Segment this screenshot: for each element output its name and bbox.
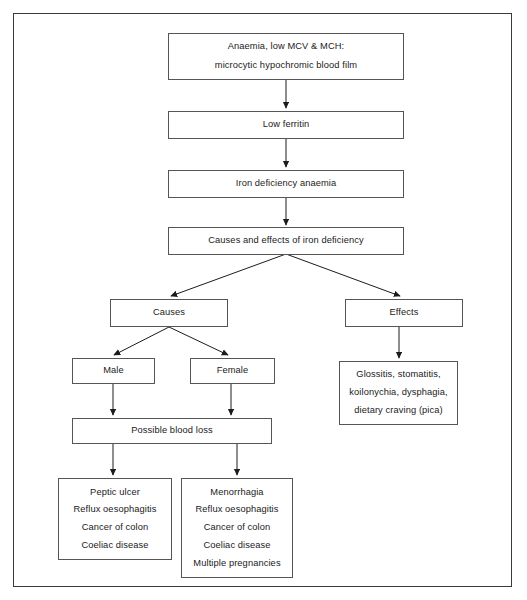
node-effects-label: Effects: [386, 308, 423, 318]
node-female-causes[interactable]: Menorrhagia Reflux oesophagitis Cancer o…: [181, 478, 293, 578]
node-effects-detail-line-3: dietary craving (pica): [350, 406, 447, 416]
node-iron-deficiency-anaemia-label: Iron deficiency anaemia: [232, 179, 341, 189]
node-causes-and-effects-label: Causes and effects of iron deficiency: [204, 236, 367, 246]
node-male-causes[interactable]: Peptic ulcer Reflux oesophagitis Cancer …: [58, 478, 172, 560]
node-causes[interactable]: Causes: [110, 299, 228, 327]
node-female-causes-line-2: Reflux oesophagitis: [191, 505, 282, 515]
node-effects-detail-line-2: koilonychia, dysphagia,: [345, 388, 451, 398]
node-anaemia[interactable]: Anaemia, low MCV & MCH: microcytic hypoc…: [168, 33, 404, 80]
node-female-causes-line-4: Coeliac disease: [199, 541, 274, 551]
node-male-causes-line-1: Peptic ulcer: [86, 488, 144, 498]
node-iron-deficiency-anaemia[interactable]: Iron deficiency anaemia: [168, 170, 404, 198]
node-effects[interactable]: Effects: [345, 299, 463, 327]
node-possible-blood-loss[interactable]: Possible blood loss: [72, 418, 272, 444]
node-male-causes-line-4: Coeliac disease: [77, 541, 152, 551]
node-male-label: Male: [99, 366, 128, 376]
node-female-label: Female: [213, 366, 253, 376]
node-low-ferritin[interactable]: Low ferritin: [168, 111, 404, 139]
node-causes-label: Causes: [149, 308, 189, 318]
node-female-causes-line-3: Cancer of colon: [200, 523, 275, 533]
diagram-canvas: Anaemia, low MCV & MCH: microcytic hypoc…: [0, 0, 527, 600]
node-possible-blood-loss-label: Possible blood loss: [127, 426, 217, 436]
node-effects-detail[interactable]: Glossitis, stomatitis, koilonychia, dysp…: [339, 361, 458, 425]
node-low-ferritin-label: Low ferritin: [259, 120, 314, 130]
node-anaemia-line-1: Anaemia, low MCV & MCH:: [224, 42, 348, 52]
node-male-causes-line-3: Cancer of colon: [78, 523, 153, 533]
node-female-causes-line-1: Menorrhagia: [206, 488, 267, 498]
node-anaemia-line-2: microcytic hypochromic blood film: [211, 61, 361, 71]
node-causes-and-effects[interactable]: Causes and effects of iron deficiency: [168, 227, 404, 255]
node-female-causes-line-5: Multiple pregnancies: [189, 559, 284, 569]
node-male[interactable]: Male: [72, 358, 155, 384]
node-effects-detail-line-1: Glossitis, stomatitis,: [352, 370, 444, 380]
node-female[interactable]: Female: [190, 358, 275, 384]
node-male-causes-line-2: Reflux oesophagitis: [69, 505, 160, 515]
